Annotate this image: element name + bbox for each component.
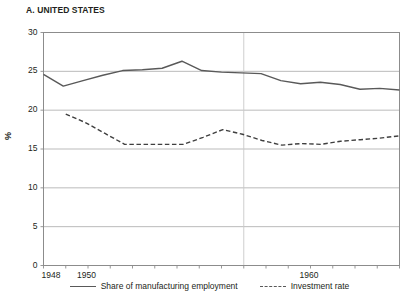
x-tick-label: 1960: [300, 270, 319, 280]
x-tick-label: 1948: [42, 270, 61, 280]
gridlines: [44, 33, 400, 266]
y-tick-label: 0: [16, 260, 38, 270]
legend-label-investment: Investment rate: [291, 281, 350, 291]
x-axis-ticks: [41, 33, 400, 269]
legend-swatch-dashed-icon: [260, 286, 286, 287]
legend-item-investment: Investment rate: [260, 281, 350, 291]
chart-legend: Share of manufacturing employment Invest…: [0, 281, 419, 291]
series-line-investment: [66, 114, 400, 145]
series-line-manufacturing: [44, 61, 400, 90]
y-tick-label: 25: [16, 65, 38, 75]
x-tick-label: 1950: [77, 270, 96, 280]
plot-area: [0, 0, 419, 303]
y-tick-label: 20: [16, 104, 38, 114]
y-tick-label: 15: [16, 143, 38, 153]
legend-label-manufacturing: Share of manufacturing employment: [101, 281, 238, 291]
legend-swatch-solid-icon: [70, 286, 96, 287]
y-tick-label: 5: [16, 221, 38, 231]
chart-figure: A. UNITED STATES % 051015202530 19481950…: [0, 0, 419, 303]
y-tick-label: 30: [16, 27, 38, 37]
legend-item-manufacturing: Share of manufacturing employment: [70, 281, 238, 291]
y-tick-label: 10: [16, 182, 38, 192]
